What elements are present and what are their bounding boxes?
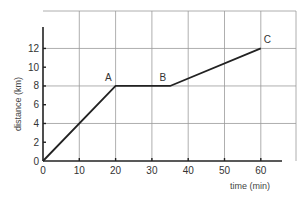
point-label-b: B: [159, 72, 166, 83]
y-tick-label: 0: [33, 156, 39, 167]
y-tick-label: 10: [28, 62, 40, 73]
x-tick-label: 60: [255, 165, 267, 176]
x-tick-label: 20: [110, 165, 122, 176]
y-tick-label: 2: [33, 137, 39, 148]
y-tick-label: 8: [33, 80, 39, 91]
x-tick-label: 30: [146, 165, 158, 176]
point-label-c: C: [264, 34, 271, 45]
x-axis-label: time (min): [230, 181, 270, 191]
point-label-a: A: [105, 72, 112, 83]
y-axis-label: distance (km): [13, 77, 23, 131]
axis-ticks: 0102030405060024681012: [28, 43, 267, 176]
y-tick-label: 4: [33, 118, 39, 129]
x-tick-label: 40: [183, 165, 195, 176]
x-tick-label: 10: [74, 165, 86, 176]
x-tick-label: 50: [219, 165, 231, 176]
y-tick-label: 12: [28, 43, 40, 54]
axes: [43, 27, 282, 161]
distance-time-chart: 0102030405060024681012 ABC time (min) di…: [0, 0, 304, 200]
y-tick-label: 6: [33, 99, 39, 110]
x-tick-label: 0: [40, 165, 46, 176]
